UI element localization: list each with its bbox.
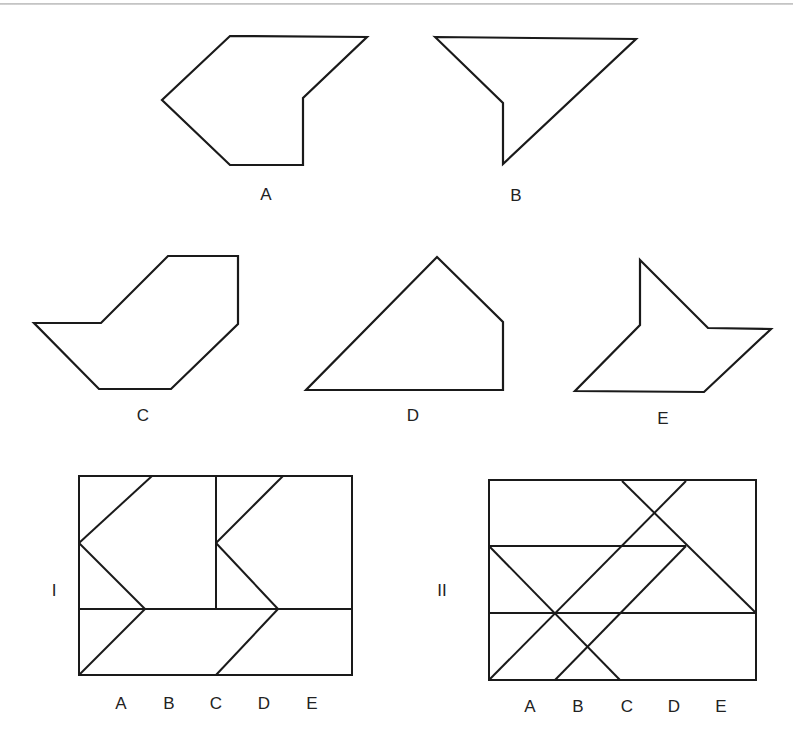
grid-ii-letter-c: C	[621, 698, 633, 715]
grid-i-segment	[79, 543, 145, 609]
grid-ii-letter-e: E	[715, 698, 726, 715]
grid-ii-letter-b: B	[572, 698, 583, 715]
grid-ii	[489, 480, 756, 680]
grid-ii-letter-a: A	[524, 698, 535, 715]
grid-i-segment	[216, 543, 278, 609]
shape-c-label: C	[137, 407, 149, 424]
grid-i-segment	[216, 476, 283, 543]
shape-e-label: E	[657, 410, 668, 427]
shape-d-outline	[306, 257, 503, 390]
grid-i-letter-d: D	[258, 695, 270, 712]
grid-i-letter-b: B	[163, 695, 174, 712]
grid-i-letter-c: C	[210, 695, 222, 712]
shape-b-outline	[435, 37, 636, 164]
grid-ii-frame	[489, 480, 756, 680]
shape-a-label: A	[260, 186, 271, 203]
shape-c-outline	[34, 256, 238, 389]
grids-layer	[79, 476, 756, 680]
shapes-layer	[34, 36, 771, 392]
grid-i-label: I	[52, 582, 57, 599]
shape-e-outline	[575, 260, 771, 392]
grid-i-segment	[216, 609, 278, 675]
shape-b-label: B	[510, 187, 521, 204]
grid-i-letter-a: A	[115, 695, 126, 712]
shape-a-outline	[162, 36, 367, 165]
grid-i	[79, 476, 352, 675]
shape-d-label: D	[407, 407, 419, 424]
grid-i-segment	[79, 609, 145, 675]
grid-ii-letter-d: D	[668, 698, 680, 715]
grid-ii-segment	[489, 481, 686, 680]
puzzle-figure	[0, 0, 793, 737]
grid-i-letter-e: E	[306, 695, 317, 712]
grid-i-segment	[79, 476, 152, 543]
grid-ii-label: II	[437, 582, 446, 599]
